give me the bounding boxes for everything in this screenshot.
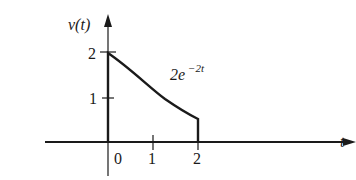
x-tick-label-1: 1 [148,150,156,167]
x-tick-label-2: 2 [193,150,201,167]
y-axis-arrow-icon [104,14,112,27]
curve-label-base: 2e [170,66,185,83]
y-tick-label-1: 1 [89,90,97,107]
x-axis-arrow-icon [343,138,356,146]
curve-label-exponent: −2t [188,62,205,74]
y-tick-label-2: 2 [88,45,96,62]
y-axis-label: v(t) [68,16,90,34]
x-axis-label: t [340,133,345,150]
signal-diagram: v(t) 2 1 0 1 2 t 2e −2t [0,0,356,180]
plot-canvas: v(t) 2 1 0 1 2 t 2e −2t [0,0,356,180]
x-tick-label-0: 0 [114,150,122,167]
